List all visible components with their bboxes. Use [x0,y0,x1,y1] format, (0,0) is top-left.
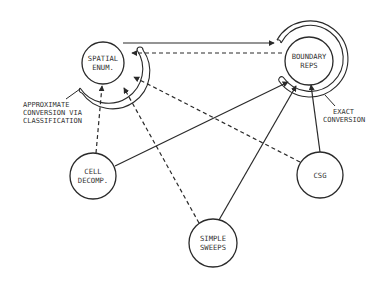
cell-decomp-label-2: DECOMP. [78,176,108,185]
node-spatial-enum: SPATIAL ENUM. [82,42,124,84]
spatial-enum-label-2: ENUM. [92,63,114,72]
node-boundary-reps: BOUNDARY REPS [285,37,333,85]
edge-sweeps-to-brep-solid [219,86,296,220]
exact-line-2: CONVERSION [323,116,365,124]
node-simple-sweeps: SIMPLE SWEEPS [189,219,237,267]
boundary-reps-label-2: REPS [300,61,317,70]
approximate-line-1: APPROXIMATE [23,101,69,109]
spatial-enum-label-1: SPATIAL [88,54,118,63]
edge-csg-to-brep-solid [311,85,320,152]
approximate-conversion-annotation: APPROXIMATE CONVERSION VIA CLASSIFICATIO… [23,89,83,125]
node-cell-decomp: CELL DECOMP. [70,153,116,199]
approximate-line-3: CLASSIFICATION [23,117,82,125]
cell-decomp-label-1: CELL [84,167,101,176]
simple-sweeps-label-1: SIMPLE [200,234,226,243]
boundary-reps-label-1: BOUNDARY [292,52,327,61]
edge-sweeps-to-spatial-dashed [124,88,199,223]
exact-conversion-annotation: EXACT CONVERSION [323,95,365,124]
edge-cell-to-spatial-dashed [96,86,102,153]
simple-sweeps-label-2: SWEEPS [200,243,226,252]
edge-csg-to-spatial-dashed [134,77,300,162]
csg-label: CSG [314,171,327,180]
edge-cell-to-brep-solid [115,82,288,166]
node-csg: CSG [297,152,343,198]
exact-line-1: EXACT [333,108,355,116]
approximate-line-2: CONVERSION VIA [23,109,83,117]
conversion-diagram: SPATIAL ENUM. BOUNDARY REPS CELL DECOMP.… [0,0,392,286]
